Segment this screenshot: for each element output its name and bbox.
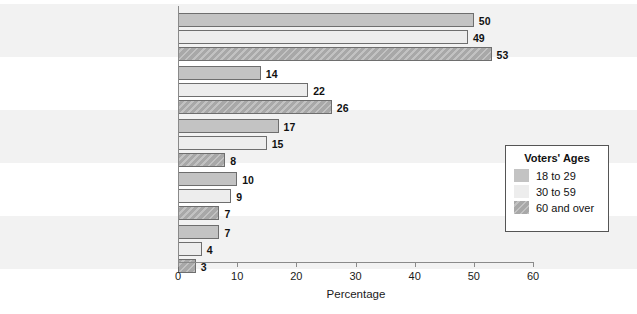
bar (178, 66, 261, 80)
legend-title: Voters' Ages (514, 152, 600, 164)
legend-item-label: 18 to 29 (536, 170, 576, 182)
legend-swatch-icon (514, 185, 529, 198)
bar-value-label: 17 (284, 121, 296, 133)
legend-swatch-icon (514, 169, 529, 182)
x-axis-tick (474, 262, 475, 267)
x-axis-tick (356, 262, 357, 267)
legend: Voters' Ages 18 to 29 30 to 59 60 and ov… (505, 145, 609, 232)
bar-value-label: 14 (266, 68, 278, 80)
x-axis-tick (296, 262, 297, 267)
x-axis-tick (415, 262, 416, 267)
x-axis-tick-label: 0 (175, 270, 181, 282)
bar-value-label: 4 (207, 244, 213, 256)
bar-value-label: 50 (479, 15, 491, 27)
y-axis-line (178, 6, 179, 262)
bar-value-label: 22 (313, 85, 325, 97)
x-axis-tick-label: 20 (290, 270, 302, 282)
bar (178, 153, 225, 167)
bar (178, 189, 231, 203)
x-axis-tick-label: 40 (409, 270, 421, 282)
bar-value-label: 8 (230, 155, 236, 167)
x-axis-tick (533, 262, 534, 267)
bar-value-label: 10 (242, 174, 254, 186)
x-axis-tick (178, 262, 179, 267)
bar (178, 172, 237, 186)
bar (178, 100, 332, 114)
x-axis-title: Percentage (178, 288, 534, 300)
bar-value-label: 26 (337, 102, 349, 114)
legend-swatch-icon (514, 201, 529, 214)
x-axis-tick-label: 30 (349, 270, 361, 282)
legend-item-30-to-59: 30 to 59 (514, 185, 600, 198)
bar (178, 225, 219, 239)
legend-item-label: 30 to 59 (536, 186, 576, 198)
bar-value-label: 53 (497, 49, 509, 61)
x-axis-tick-label: 60 (527, 270, 539, 282)
bar-value-label: 15 (272, 138, 284, 150)
bar (178, 119, 279, 133)
bar-value-label: 7 (224, 208, 230, 220)
x-axis-tick-label: 50 (468, 270, 480, 282)
bar (178, 206, 219, 220)
legend-item-60-and-over: 60 and over (514, 201, 600, 214)
legend-item-18-to-29: 18 to 29 (514, 169, 600, 182)
bar (178, 83, 308, 97)
plot-area: 504953142226171581097743 (178, 6, 533, 261)
bar-value-label: 7 (224, 227, 230, 239)
x-axis-tick-label: 10 (231, 270, 243, 282)
bar-value-label: 9 (236, 191, 242, 203)
legend-item-label: 60 and over (536, 202, 594, 214)
bar (178, 30, 468, 44)
bar (178, 242, 202, 256)
bar (178, 47, 492, 61)
bar-value-label: 49 (473, 32, 485, 44)
bar (178, 136, 267, 150)
bar-chart: Health care Corruption in government Tax… (0, 0, 637, 314)
x-axis-tick (237, 262, 238, 267)
bar (178, 13, 474, 27)
